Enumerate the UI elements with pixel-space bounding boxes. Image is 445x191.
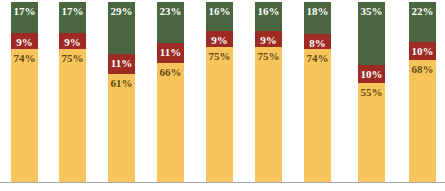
- segment-value-label: 74%: [304, 52, 331, 64]
- bar-column: 23% 11% 66%: [157, 2, 184, 182]
- bar-segment-middle: 9%: [206, 31, 233, 47]
- bar-segment-middle: 10%: [409, 42, 436, 60]
- bar-segment-bottom: 55%: [358, 83, 385, 182]
- bar-segment-bottom: 75%: [59, 49, 86, 182]
- segment-value-label: 66%: [157, 66, 184, 78]
- bar-segment-bottom: 66%: [157, 63, 184, 182]
- bar-segment-bottom: 75%: [255, 47, 282, 182]
- segment-value-label: 22%: [409, 5, 436, 17]
- bar-segment-middle: 9%: [255, 31, 282, 47]
- bar-segment-middle: 9%: [11, 33, 38, 49]
- segment-value-label: 75%: [206, 50, 233, 62]
- segment-value-label: 11%: [157, 46, 184, 58]
- bar-segment-bottom: 74%: [11, 49, 38, 182]
- bar-segment-bottom: 68%: [409, 60, 436, 182]
- bar-column: 17% 9% 75%: [59, 2, 86, 182]
- segment-value-label: 75%: [59, 52, 86, 64]
- bar-column: 16% 9% 75%: [255, 2, 282, 182]
- segment-value-label: 9%: [206, 34, 233, 46]
- segment-value-label: 17%: [59, 5, 86, 17]
- segment-value-label: 74%: [11, 52, 38, 64]
- bar-column: 22% 10% 68%: [409, 2, 436, 182]
- bar-segment-middle: 9%: [59, 33, 86, 49]
- bar-column: 18% 8% 74%: [304, 2, 331, 182]
- plot-area: 17% 9% 74% 17% 9% 75% 29%: [0, 0, 445, 182]
- bar-segment-middle: 11%: [157, 43, 184, 63]
- segment-value-label: 16%: [255, 5, 282, 17]
- bar-segment-top: 23%: [157, 2, 184, 43]
- bar-segment-top: 17%: [59, 2, 86, 33]
- bar-segment-top: 18%: [304, 2, 331, 34]
- segment-value-label: 10%: [358, 68, 385, 80]
- bar-segment-middle: 8%: [304, 34, 331, 48]
- segment-value-label: 17%: [11, 5, 38, 17]
- segment-value-label: 75%: [255, 50, 282, 62]
- bar-segment-top: 22%: [409, 2, 436, 42]
- segment-value-label: 10%: [409, 45, 436, 57]
- x-axis-labels: [0, 183, 445, 191]
- bar-segment-top: 35%: [358, 2, 385, 65]
- bar-segment-top: 29%: [108, 2, 135, 54]
- bar-column: 16% 9% 75%: [206, 2, 233, 182]
- segment-value-label: 9%: [59, 36, 86, 48]
- bar-segment-bottom: 61%: [108, 74, 135, 182]
- segment-value-label: 8%: [304, 37, 331, 49]
- segment-value-label: 9%: [11, 36, 38, 48]
- stacked-bar-chart: 17% 9% 74% 17% 9% 75% 29%: [0, 0, 445, 191]
- segment-value-label: 55%: [358, 86, 385, 98]
- bar-segment-middle: 11%: [108, 54, 135, 74]
- segment-value-label: 9%: [255, 34, 282, 46]
- bar-column: 17% 9% 74%: [11, 2, 38, 182]
- bar-segment-bottom: 74%: [304, 49, 331, 182]
- bar-segment-top: 16%: [255, 2, 282, 31]
- segment-value-label: 68%: [409, 63, 436, 75]
- bar-segment-bottom: 75%: [206, 47, 233, 182]
- segment-value-label: 16%: [206, 5, 233, 17]
- segment-value-label: 11%: [108, 57, 135, 69]
- segment-value-label: 29%: [108, 5, 135, 17]
- bar-segment-top: 16%: [206, 2, 233, 31]
- segment-value-label: 23%: [157, 5, 184, 17]
- bar-column: 29% 11% 61%: [108, 2, 135, 182]
- bar-column: 35% 10% 55%: [358, 2, 385, 182]
- bar-segment-middle: 10%: [358, 65, 385, 83]
- segment-value-label: 35%: [358, 5, 385, 17]
- segment-value-label: 18%: [304, 5, 331, 17]
- segment-value-label: 61%: [108, 77, 135, 89]
- bar-segment-top: 17%: [11, 2, 38, 33]
